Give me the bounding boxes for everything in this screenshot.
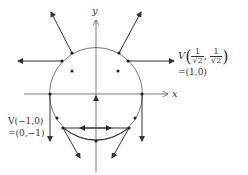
vector-field-diagram <box>0 0 248 175</box>
x-axis-label: x <box>172 89 178 99</box>
fraction-1: 1√2 <box>191 48 203 65</box>
label-top-right: V(1√2, 1√2) <box>178 48 228 65</box>
label-top-right-value: =(1,0) <box>178 68 207 77</box>
label-bottom-left: V(−1,0) <box>8 117 43 126</box>
fraction-2: 1√2 <box>210 48 222 65</box>
label-bottom-left-value: =(0,−1) <box>8 129 44 138</box>
y-axis-label: y <box>92 6 98 16</box>
